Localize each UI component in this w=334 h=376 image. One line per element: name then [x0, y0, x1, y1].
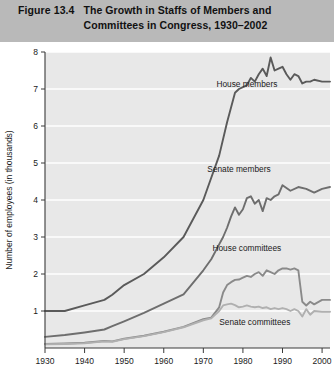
y-tick-label: 3: [33, 232, 38, 242]
figure-title-line-1: The Growth in Staffs of Members and: [84, 3, 272, 18]
series-label-house-members: House members: [216, 79, 277, 89]
x-axis-ticks: 19301940195019601970198019902000: [36, 348, 332, 366]
x-tick-label: 1930: [36, 356, 55, 366]
figure-header-band: Figure 13.4 The Growth in Staffs of Memb…: [0, 0, 334, 42]
figure-title: The Growth in Staffs of Members and Comm…: [84, 3, 272, 33]
series-label-senate-members: Senate members: [207, 164, 270, 174]
y-tick-label: 1: [33, 306, 38, 316]
y-tick-label: 8: [33, 47, 38, 57]
y-tick-label: 5: [33, 158, 38, 168]
y-axis-title: Number of employees (in thousands): [4, 130, 14, 270]
series-label-house-committees: House committees: [213, 243, 282, 253]
x-tick-label: 1950: [115, 356, 134, 366]
x-tick-label: 1970: [194, 356, 213, 366]
y-tick-label: 2: [33, 269, 38, 279]
figure-container: Figure 13.4 The Growth in Staffs of Memb…: [0, 0, 334, 376]
y-axis-ticks: 12345678: [33, 47, 45, 316]
chart-area: 12345678 1930194019501960197019801990200…: [0, 42, 334, 376]
x-tick-label: 1940: [75, 356, 94, 366]
x-tick-label: 1980: [233, 356, 252, 366]
y-tick-label: 4: [33, 195, 38, 205]
x-tick-label: 1990: [273, 356, 292, 366]
y-tick-label: 7: [33, 84, 38, 94]
figure-number: Figure 13.4: [18, 3, 75, 16]
x-tick-label: 2000: [313, 356, 332, 366]
y-tick-label: 6: [33, 121, 38, 131]
figure-title-line-2: Committees in Congress, 1930–2002: [84, 18, 272, 33]
series-label-senate-committees: Senate committees: [219, 317, 290, 327]
line-chart: 12345678 1930194019501960197019801990200…: [0, 42, 334, 376]
figure-header-text: Figure 13.4 The Growth in Staffs of Memb…: [18, 3, 328, 33]
x-tick-label: 1960: [154, 356, 173, 366]
